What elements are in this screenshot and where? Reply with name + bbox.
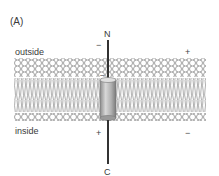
inside-label: inside: [15, 126, 39, 136]
inside-charge-negative: −: [185, 128, 190, 138]
outer-heads: [14, 58, 206, 77]
transmembrane-helix: [100, 78, 116, 121]
outside-charge-negative: −: [96, 40, 101, 50]
outside-charge-positive: +: [185, 47, 190, 57]
membrane-diagram: [0, 0, 219, 176]
n-terminus-label: N: [104, 29, 111, 39]
inside-charge-positive: +: [96, 128, 101, 138]
outside-label: outside: [15, 47, 44, 57]
c-terminus-label: C: [104, 167, 111, 176]
helix-charge-negative: −: [100, 71, 105, 81]
panel-label: (A): [10, 17, 23, 27]
